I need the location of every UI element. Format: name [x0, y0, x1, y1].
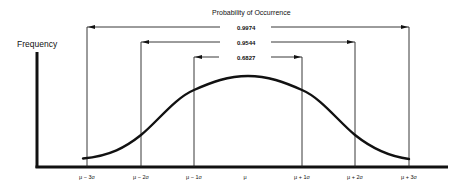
normal-distribution-chart: Probability of Occurrence Frequency 0.99… — [0, 0, 466, 189]
chart-title: Probability of Occurrence — [212, 9, 291, 17]
tick-plus-1-sigma: μ + 1σ — [294, 174, 310, 180]
tick-plus-3-sigma: μ + 3σ — [401, 174, 417, 180]
y-axis-label: Frequency — [17, 39, 58, 49]
tick-plus-2-sigma: μ + 2σ — [347, 174, 363, 180]
arrow-right-icon — [347, 40, 354, 44]
tick-minus-3-sigma: μ − 3σ — [79, 174, 95, 180]
bracket-3-sigma: 0.9974 — [87, 25, 409, 31]
tick-minus-2-sigma: μ − 2σ — [133, 174, 149, 180]
sigma-lines — [87, 27, 409, 167]
arrow-left-icon — [88, 25, 95, 29]
bracket-1-sigma: 0.6827 — [194, 55, 302, 61]
chart-canvas: Probability of Occurrence Frequency 0.99… — [0, 0, 466, 189]
tick-minus-1-sigma: μ − 1σ — [186, 174, 202, 180]
probability-1-sigma: 0.6827 — [237, 55, 256, 61]
arrow-right-icon — [401, 25, 408, 29]
probability-3-sigma: 0.9974 — [237, 25, 256, 31]
tick-mu: μ — [243, 174, 246, 180]
bell-curve — [83, 76, 409, 159]
bracket-2-sigma: 0.9544 — [141, 40, 355, 46]
arrow-left-icon — [195, 55, 202, 59]
x-tick-labels: μ − 3σ μ − 2σ μ − 1σ μ μ + 1σ μ + 2σ μ +… — [79, 174, 417, 180]
arrow-left-icon — [142, 40, 149, 44]
probability-2-sigma: 0.9544 — [237, 40, 256, 46]
arrow-right-icon — [294, 55, 301, 59]
